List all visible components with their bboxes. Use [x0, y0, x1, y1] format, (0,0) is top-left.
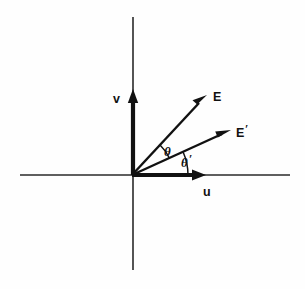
theta-label: θ: [164, 144, 171, 159]
unit-vector-u-label: u: [203, 185, 211, 199]
coordinate-vector-diagram: E E ′ v u θ θ ′: [0, 0, 305, 289]
theta-prime-label: θ: [181, 155, 188, 170]
figure-background: [0, 0, 305, 289]
vector-e-prime-prime-mark: ′: [245, 122, 248, 136]
vector-e-prime-label: E: [236, 126, 244, 140]
theta-prime-prime-mark: ′: [189, 152, 192, 166]
vector-e-label: E: [213, 90, 221, 104]
vector-diagram-figure: E E ′ v u θ θ ′: [0, 0, 305, 289]
unit-vector-v-label: v: [113, 92, 120, 106]
